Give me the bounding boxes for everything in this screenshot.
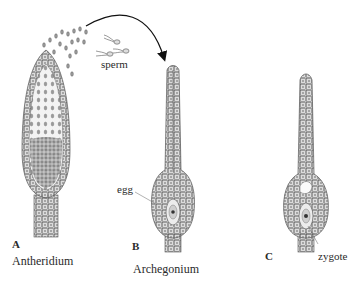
antheridium-label: Antheridium xyxy=(12,254,73,269)
panel-letter-c: C xyxy=(265,250,273,262)
archegonium-label: Archegonium xyxy=(133,262,199,277)
zygote-nucleus xyxy=(304,214,308,218)
sperm-label: sperm xyxy=(101,58,128,70)
zygote-label: zygote xyxy=(318,250,347,262)
zygote-figure xyxy=(284,74,329,252)
egg-nucleus xyxy=(171,210,175,214)
panel-letter-b: B xyxy=(132,240,139,252)
panel-letter-a: A xyxy=(12,238,20,250)
life-cycle-diagram xyxy=(0,0,360,284)
sperm-icons xyxy=(96,35,129,56)
archegonium-figure xyxy=(135,66,194,253)
egg-label: egg xyxy=(117,183,133,195)
